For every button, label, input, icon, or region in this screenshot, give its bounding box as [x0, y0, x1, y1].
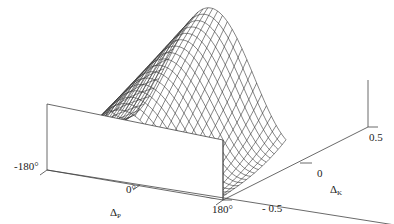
y-tick-0: 0: [317, 167, 323, 179]
x-tick-0: 0°: [126, 183, 136, 195]
x-tick-180: 180°: [212, 203, 233, 215]
x-tick-neg180: -180°: [14, 160, 39, 172]
x-axis-subscript: P: [117, 212, 121, 220]
y-axis-subscript: K: [337, 189, 342, 197]
y-tick-neg05: - 0.5: [262, 202, 282, 214]
y-axis-label: ΔK: [330, 183, 342, 197]
y-tick-05: 0.5: [369, 131, 383, 143]
x-axis-label: ΔP: [110, 206, 121, 220]
